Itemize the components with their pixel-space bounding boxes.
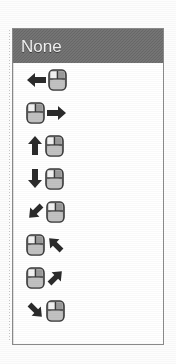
arrow-up-left-then-mouse-icon	[19, 201, 65, 223]
list-item[interactable]	[13, 195, 163, 228]
mouse-then-arrow-down-right-icon	[19, 267, 65, 289]
arrow-down-left-then-mouse-icon	[19, 300, 65, 322]
mouse-icon	[26, 267, 45, 289]
mouse-icon	[45, 135, 64, 157]
arrow-down-right-icon	[46, 268, 65, 287]
arrow-down-left-icon	[26, 301, 45, 320]
list-item[interactable]	[13, 129, 163, 162]
mouse-icon	[26, 102, 45, 124]
mouse-icon	[46, 300, 65, 322]
arrow-up-then-mouse-icon	[19, 135, 64, 157]
arrow-left-then-mouse-icon	[19, 69, 67, 91]
mouse-icon	[26, 234, 45, 256]
arrow-up-icon	[26, 135, 44, 156]
arrow-left-icon	[26, 71, 47, 89]
list-item[interactable]	[13, 294, 163, 327]
mouse-icon	[48, 69, 67, 91]
mouse-then-arrow-up-right-icon	[19, 234, 65, 256]
mouse-then-arrow-right-icon	[19, 102, 67, 124]
arrow-down-then-mouse-icon	[19, 168, 64, 190]
list-item[interactable]	[13, 228, 163, 261]
mouse-icon	[45, 168, 64, 190]
list-item[interactable]: None	[13, 29, 163, 63]
list-item[interactable]	[13, 261, 163, 294]
list-item[interactable]	[13, 162, 163, 195]
arrow-up-right-icon	[46, 235, 65, 254]
scan-artifact-line	[9, 30, 10, 342]
arrow-down-icon	[26, 168, 44, 189]
arrow-right-icon	[46, 104, 67, 122]
list-item-label: None	[19, 38, 62, 55]
mouse-gesture-listbox[interactable]: None	[12, 28, 164, 345]
list-item[interactable]	[13, 63, 163, 96]
scan-page: None	[0, 0, 176, 364]
arrow-up-left-icon	[26, 202, 45, 221]
list-item[interactable]	[13, 96, 163, 129]
mouse-icon	[46, 201, 65, 223]
